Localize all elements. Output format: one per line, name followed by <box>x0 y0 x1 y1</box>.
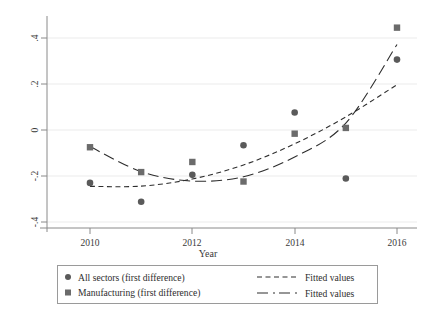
legend-square-marker-icon <box>65 290 71 296</box>
data-point-all-sectors <box>343 175 350 182</box>
data-point-all-sectors <box>240 142 247 149</box>
data-point-manufacturing <box>87 144 93 150</box>
data-point-all-sectors <box>138 198 145 205</box>
fitted-line-manufacturing <box>90 44 397 181</box>
data-point-manufacturing <box>394 24 400 30</box>
data-point-all-sectors <box>189 172 196 179</box>
chart-figure: .4 .2 0 -.2 -.4 2010 2012 2014 2016 Year… <box>0 0 424 313</box>
legend-label-all-sectors[interactable]: All sectors (first difference) <box>78 272 185 284</box>
y-tick-label-neg0-2: -.2 <box>30 171 40 182</box>
data-point-manufacturing <box>240 178 246 184</box>
legend-label-fitted-values-mfg[interactable]: Fitted values <box>305 288 355 299</box>
y-tick-label-0-4: .4 <box>30 34 40 41</box>
x-axis-title: Year <box>199 248 218 259</box>
fitted-line-all-sectors <box>90 85 397 187</box>
x-tick-label-2012: 2012 <box>183 238 202 248</box>
data-point-all-sectors <box>291 109 298 116</box>
data-markers-manufacturing <box>87 24 400 184</box>
fitted-curves <box>90 44 397 186</box>
data-point-all-sectors <box>87 180 94 187</box>
x-tick-label-2010: 2010 <box>81 238 100 248</box>
data-point-all-sectors <box>394 56 401 63</box>
y-tick-label-neg0-4: -.4 <box>30 217 40 228</box>
legend-circle-marker-icon <box>65 274 71 280</box>
y-tick-label-0: 0 <box>30 127 40 132</box>
gridlines <box>47 38 417 222</box>
axes <box>40 16 417 234</box>
data-point-manufacturing <box>291 130 297 136</box>
y-tick-label-0-2: .2 <box>30 80 40 87</box>
y-tick-labels: .4 .2 0 -.2 -.4 <box>30 34 40 227</box>
x-tick-label-2014: 2014 <box>286 238 305 248</box>
scatter-chart: .4 .2 0 -.2 -.4 2010 2012 2014 2016 Year… <box>0 0 424 313</box>
data-point-manufacturing <box>138 169 144 175</box>
x-tick-label-2016: 2016 <box>388 238 407 248</box>
data-point-manufacturing <box>343 125 349 131</box>
data-point-manufacturing <box>189 159 195 165</box>
legend: All sectors (first difference) Manufactu… <box>58 266 378 304</box>
legend-label-fitted-values-all[interactable]: Fitted values <box>305 272 355 283</box>
x-tick-labels: 2010 2012 2014 2016 <box>81 238 407 248</box>
legend-label-manufacturing[interactable]: Manufacturing (first difference) <box>78 287 200 299</box>
